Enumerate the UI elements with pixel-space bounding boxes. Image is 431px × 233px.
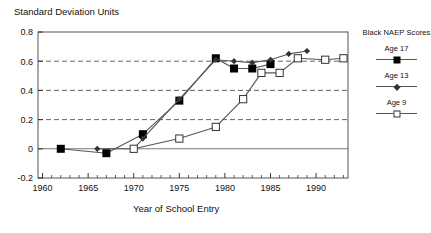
data-point [304, 48, 310, 54]
x-tick-label: 1990 [306, 183, 326, 193]
series-line-0 [61, 58, 271, 153]
x-tick-label: 1985 [260, 183, 280, 193]
series-line-1 [97, 51, 307, 149]
legend-title: Black NAEP Scores [357, 28, 431, 37]
data-point [286, 51, 292, 57]
y-tick-label: 0 [28, 144, 33, 154]
legend-item-age-9[interactable]: Age 9 [362, 98, 431, 119]
data-point [102, 149, 110, 157]
filled-square-icon [393, 56, 400, 63]
legend-item-age-17[interactable]: Age 17 [362, 44, 431, 65]
data-point [258, 69, 265, 76]
x-tick-label: 1980 [215, 183, 235, 193]
data-point [276, 69, 283, 76]
data-point [230, 65, 238, 73]
data-point [240, 96, 247, 103]
filled-diamond-icon [393, 83, 399, 89]
data-point [212, 123, 219, 130]
data-point [340, 55, 347, 62]
legend-swatch-age-17 [362, 54, 431, 65]
y-tick-label: 0.8 [20, 27, 33, 37]
data-point [130, 145, 137, 152]
x-tick-label: 1970 [124, 183, 144, 193]
x-axis-title: Year of School Entry [133, 203, 219, 214]
open-square-icon [393, 110, 400, 117]
data-point [94, 146, 100, 152]
legend-swatch-age-9 [362, 108, 431, 119]
legend-item-age-13[interactable]: Age 13 [362, 71, 431, 92]
y-tick-label: 0.6 [20, 57, 33, 67]
data-point [294, 55, 301, 62]
series-line-2 [134, 58, 344, 149]
legend-label-age-9: Age 9 [362, 98, 431, 108]
y-tick-label: -0.2 [17, 173, 33, 183]
legend-label-age-13: Age 13 [362, 71, 431, 81]
legend-swatch-age-13 [362, 81, 431, 92]
chart-figure: Standard Deviation Units -0.200.20.40.60… [0, 0, 431, 233]
plot-frame [38, 32, 348, 178]
data-point [57, 145, 65, 153]
x-tick-label: 1975 [169, 183, 189, 193]
x-tick-label: 1965 [78, 183, 98, 193]
legend-label-age-17: Age 17 [362, 44, 431, 54]
data-point [231, 58, 237, 64]
data-point [322, 56, 329, 63]
x-tick-label: 1960 [33, 183, 53, 193]
data-point [176, 135, 183, 142]
y-tick-label: 0.2 [20, 115, 33, 125]
y-tick-label: 0.4 [20, 86, 33, 96]
